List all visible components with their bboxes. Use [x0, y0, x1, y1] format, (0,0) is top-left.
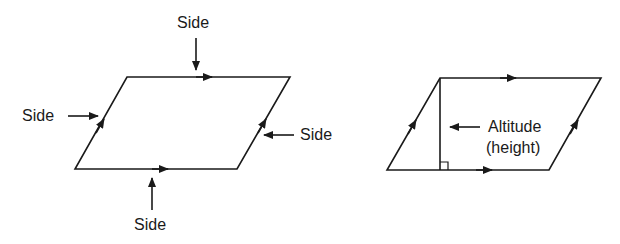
parallelogram-sides — [68, 38, 294, 210]
label-side-left: Side — [22, 107, 54, 125]
label-side-right: Side — [300, 126, 332, 144]
label-altitude: Altitude — [488, 118, 541, 136]
parallel-marker-right — [570, 120, 578, 134]
right-angle-marker — [440, 162, 448, 170]
parallel-marker-right — [258, 119, 266, 133]
parallel-marker-left — [408, 120, 416, 134]
label-height: (height) — [486, 139, 540, 157]
label-side-bottom: Side — [134, 216, 166, 234]
label-side-top: Side — [177, 14, 209, 32]
parallel-marker-left — [96, 119, 104, 133]
